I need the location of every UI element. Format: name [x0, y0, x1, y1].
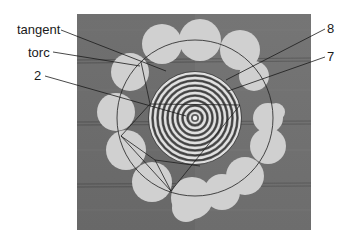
label-8: 8	[327, 22, 334, 35]
label-7: 7	[327, 50, 334, 63]
label-tangent: tangent	[17, 23, 60, 36]
label-torc: torc	[28, 46, 50, 59]
concentric-rings	[149, 72, 242, 165]
label-2: 2	[34, 69, 41, 82]
